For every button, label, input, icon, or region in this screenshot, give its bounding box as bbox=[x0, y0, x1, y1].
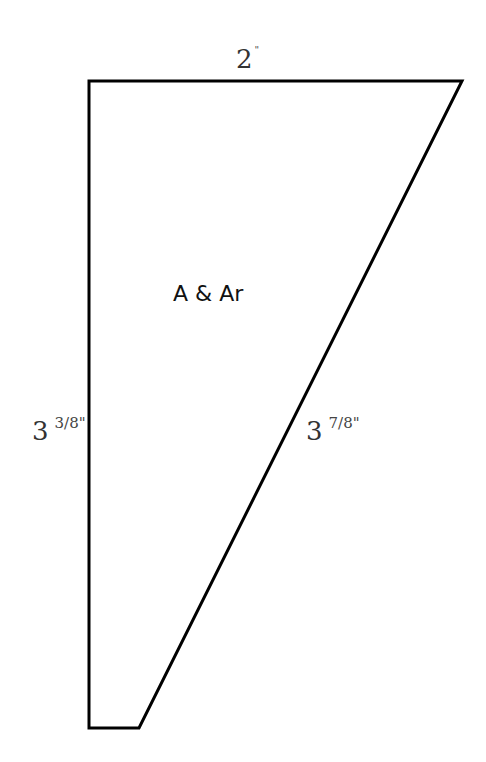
piece-label: A & Ar bbox=[173, 281, 243, 306]
fraction: 3/8" bbox=[55, 414, 86, 432]
fraction: 7/8" bbox=[329, 414, 360, 432]
dimension-top: 2" bbox=[236, 44, 259, 74]
dimension-diagonal: 37/8" bbox=[306, 416, 360, 446]
trapezoid-shape bbox=[89, 81, 462, 728]
dimension-left: 33/8" bbox=[32, 416, 86, 446]
pattern-piece-outline bbox=[0, 0, 486, 762]
inch-mark: " bbox=[255, 44, 260, 55]
